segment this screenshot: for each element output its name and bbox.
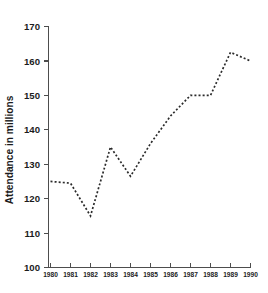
y-axis-tick-labels: 170 160 150 140 130 120 110 100	[24, 21, 40, 273]
chart-figure: 170 160 150 140 130 120 110 100 Attendan…	[0, 0, 268, 293]
y-tick-label-150: 150	[24, 90, 40, 101]
y-tick-label-100: 100	[24, 262, 40, 273]
y-tick-label-140: 140	[24, 124, 40, 135]
y-tick-label-110: 110	[25, 228, 40, 239]
y-axis-label: Attendance in millions	[4, 95, 15, 204]
x-tick-label-1983: 1983	[103, 271, 118, 278]
y-tick-label-120: 120	[24, 193, 40, 204]
x-tick-label-1985: 1985	[143, 271, 158, 278]
series-attendance	[51, 52, 251, 216]
y-tick-label-170: 170	[24, 21, 40, 32]
x-axis: 1980 1981 1982 1983 1984 1985 1986 1987 …	[43, 263, 258, 278]
y-axis-ticks	[44, 27, 49, 268]
y-tick-label-130: 130	[24, 159, 40, 170]
x-axis-ticks	[51, 263, 251, 268]
x-tick-label-1989: 1989	[223, 271, 238, 278]
x-tick-label-1986: 1986	[163, 271, 178, 278]
x-tick-label-1987: 1987	[183, 271, 198, 278]
attendance-line	[51, 52, 251, 216]
x-axis-tick-labels: 1980 1981 1982 1983 1984 1985 1986 1987 …	[43, 271, 258, 278]
x-tick-label-1982: 1982	[83, 271, 98, 278]
x-tick-label-1988: 1988	[203, 271, 218, 278]
chart-canvas: 170 160 150 140 130 120 110 100 Attendan…	[0, 0, 268, 293]
y-tick-label-160: 160	[24, 56, 40, 67]
x-tick-label-1984: 1984	[123, 271, 138, 278]
x-tick-label-1980: 1980	[43, 271, 58, 278]
x-tick-label-1981: 1981	[63, 271, 78, 278]
y-axis: 170 160 150 140 130 120 110 100 Attendan…	[4, 21, 49, 273]
x-tick-label-1990: 1990	[243, 271, 258, 278]
